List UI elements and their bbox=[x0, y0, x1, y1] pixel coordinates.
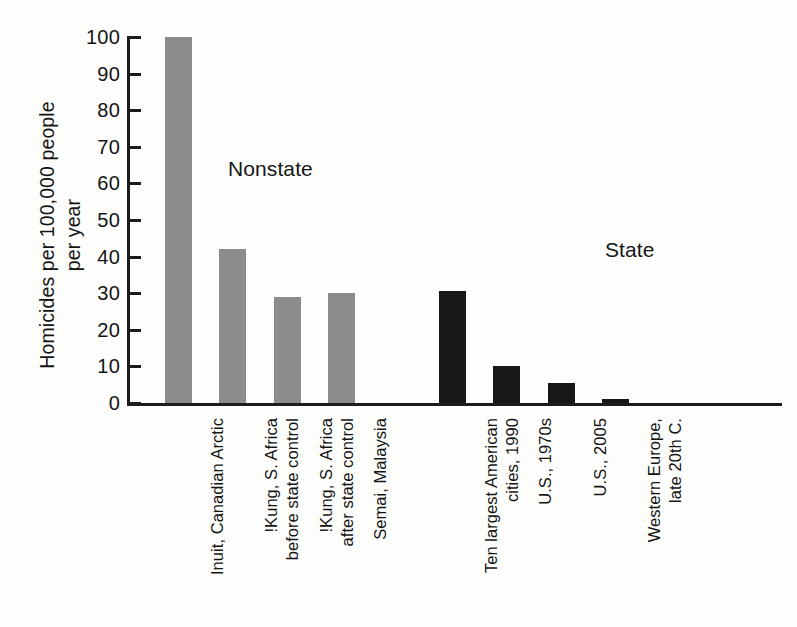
bar-3 bbox=[274, 297, 301, 403]
y-tick-100 bbox=[130, 36, 141, 39]
category-label-8: Western Europe,late 20th C. bbox=[644, 418, 700, 608]
category-label-6-line-1: U.S., 1970s bbox=[535, 418, 556, 505]
category-label-3: !Kung, S. Africaafter state control bbox=[316, 418, 372, 608]
y-tick-label-30: 30 bbox=[72, 283, 120, 303]
y-tick-label-wrap-70: 70 bbox=[72, 137, 120, 157]
group-label-state: State bbox=[605, 238, 655, 262]
bar-1 bbox=[165, 37, 192, 403]
y-tick-10 bbox=[130, 365, 141, 368]
category-label-5-line-2: cities, 1990 bbox=[502, 418, 523, 502]
category-label-2-line-2: before state control bbox=[282, 418, 303, 560]
category-label-2-line-1: !Kung, S. Africa bbox=[261, 418, 282, 533]
y-axis-title: Homicides per 100,000 people per year bbox=[39, 25, 83, 445]
category-label-7: U.S., 2005 bbox=[590, 418, 646, 608]
y-tick-label-wrap-100: 100 bbox=[72, 27, 120, 47]
y-tick-20 bbox=[130, 329, 141, 332]
y-tick-30 bbox=[130, 292, 141, 295]
bar-6 bbox=[493, 366, 520, 403]
category-label-3-line-1: !Kung, S. Africa bbox=[316, 418, 337, 533]
y-tick-0 bbox=[130, 402, 141, 405]
y-tick-label-60: 60 bbox=[72, 173, 120, 193]
category-label-8-line-1: Western Europe, bbox=[644, 418, 665, 542]
category-label-8-line-2: late 20th C. bbox=[665, 418, 686, 503]
y-tick-80 bbox=[130, 109, 141, 112]
category-label-5-line-1: Ten largest American bbox=[481, 418, 502, 573]
y-tick-40 bbox=[130, 256, 141, 259]
y-tick-label-50: 50 bbox=[72, 210, 120, 230]
y-tick-label-wrap-40: 40 bbox=[72, 247, 120, 267]
y-tick-label-wrap-90: 90 bbox=[72, 64, 120, 84]
y-tick-label-0: 0 bbox=[72, 393, 120, 413]
category-label-1-line-1: Inuit, Canadian Arctic bbox=[207, 418, 228, 575]
y-tick-90 bbox=[130, 73, 141, 76]
bar-5 bbox=[439, 291, 466, 403]
category-label-6: U.S., 1970s bbox=[535, 418, 591, 608]
y-tick-50 bbox=[130, 219, 141, 222]
category-label-4-line-1: Semai, Malaysia bbox=[370, 418, 391, 540]
y-tick-label-wrap-30: 30 bbox=[72, 283, 120, 303]
category-label-1: Inuit, Canadian Arctic bbox=[207, 418, 263, 608]
bar-4 bbox=[328, 293, 355, 403]
bar-2 bbox=[219, 249, 246, 403]
y-tick-70 bbox=[130, 146, 141, 149]
group-label-nonstate: Nonstate bbox=[228, 157, 313, 181]
category-label-4: Semai, Malaysia bbox=[370, 418, 426, 608]
y-tick-label-wrap-50: 50 bbox=[72, 210, 120, 230]
bar-8 bbox=[602, 399, 629, 403]
y-tick-60 bbox=[130, 182, 141, 185]
y-tick-label-wrap-60: 60 bbox=[72, 173, 120, 193]
y-tick-label-70: 70 bbox=[72, 137, 120, 157]
y-tick-label-80: 80 bbox=[72, 100, 120, 120]
y-tick-label-20: 20 bbox=[72, 320, 120, 340]
category-label-3-line-2: after state control bbox=[337, 418, 358, 546]
y-axis-title-line-1: Homicides per 100,000 people bbox=[35, 101, 61, 368]
y-tick-label-90: 90 bbox=[72, 64, 120, 84]
y-tick-label-wrap-0: 0 bbox=[72, 393, 120, 413]
x-axis-line bbox=[127, 403, 782, 406]
y-tick-label-wrap-80: 80 bbox=[72, 100, 120, 120]
y-tick-label-10: 10 bbox=[72, 356, 120, 376]
bar-7 bbox=[548, 383, 575, 403]
y-tick-label-40: 40 bbox=[72, 247, 120, 267]
y-tick-label-wrap-20: 20 bbox=[72, 320, 120, 340]
y-tick-label-100: 100 bbox=[72, 27, 120, 47]
category-label-5: Ten largest Americancities, 1990 bbox=[481, 418, 537, 608]
category-label-7-line-1: U.S., 2005 bbox=[590, 418, 611, 496]
category-label-2: !Kung, S. Africabefore state control bbox=[261, 418, 317, 608]
homicide-rate-bar-chart: Homicides per 100,000 people per year 01… bbox=[0, 0, 797, 627]
y-tick-label-wrap-10: 10 bbox=[72, 356, 120, 376]
